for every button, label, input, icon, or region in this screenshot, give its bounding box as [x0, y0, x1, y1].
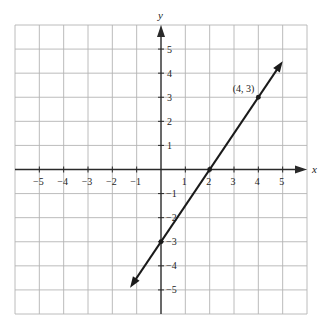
x-tick-label: −3: [82, 176, 93, 187]
point-label-4-3: (4, 3): [233, 83, 255, 95]
line-arrow-start-icon: [130, 276, 139, 287]
x-tick-label: −5: [33, 176, 44, 187]
data-point: [159, 239, 164, 244]
y-tick-label: −1: [166, 188, 177, 199]
x-axis-label: x: [311, 163, 317, 175]
y-tick-label: 4: [167, 68, 172, 79]
x-tick-label: 1: [182, 176, 187, 187]
y-tick-label: −4: [166, 260, 177, 271]
data-point: [207, 167, 212, 172]
coordinate-plane-chart: −5−4−3−2−11234554321−1−2−3−4−5 x y (4, 3…: [0, 0, 329, 325]
plotted-line: [130, 61, 283, 288]
x-tick-label: 2: [206, 176, 211, 187]
chart-canvas: −5−4−3−2−11234554321−1−2−3−4−5 x y (4, 3…: [0, 0, 329, 325]
y-tick-label: 1: [167, 140, 172, 151]
y-tick-label: −3: [166, 236, 177, 247]
x-axis-arrow-icon: [295, 166, 307, 174]
y-tick-label: 3: [167, 92, 172, 103]
y-tick-label: 5: [167, 44, 172, 55]
x-tick-label: −1: [130, 176, 141, 187]
y-axis-arrow-icon: [157, 25, 165, 37]
x-tick-label: −4: [57, 176, 68, 187]
y-tick-label: 2: [167, 116, 172, 127]
x-tick-label: −2: [106, 176, 117, 187]
x-tick-label: 3: [231, 176, 236, 187]
data-point: [256, 95, 261, 100]
x-tick-label: 4: [255, 176, 260, 187]
line-arrow-end-icon: [273, 61, 282, 72]
y-tick-label: −5: [166, 284, 177, 295]
axes: [15, 25, 307, 314]
x-tick-label: 5: [279, 176, 284, 187]
y-axis-label: y: [157, 9, 163, 21]
